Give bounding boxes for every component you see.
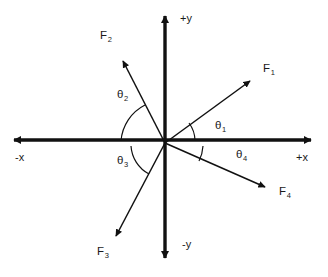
vector-F2: [123, 61, 165, 143]
angle-label-theta2-sub: 2: [124, 94, 128, 103]
force-label-F2-sub: 2: [108, 35, 112, 44]
vector-F1: [165, 81, 250, 143]
force-label-F1-sub: 1: [271, 68, 275, 77]
force-label-F3-sub: 3: [105, 251, 109, 260]
axis-label-negative-x-text: -x: [15, 151, 25, 163]
force-label-F1-base: F: [263, 62, 270, 74]
angle-label-theta4-base: θ: [236, 148, 243, 160]
angle-label-theta3-sub: 3: [124, 160, 128, 169]
force-label-F4: F4: [279, 186, 291, 198]
force-label-F2: F2: [100, 30, 112, 42]
force-label-F3: F3: [97, 246, 109, 258]
force-label-F1: F1: [263, 63, 275, 75]
force-vector-diagram: +y -y +x -x F1 F2 F3 F4 θ1 θ2 θ3 θ4: [0, 0, 328, 277]
angle-label-theta2: θ2: [117, 89, 128, 101]
theta2-arc: [121, 105, 145, 141]
angle-label-theta2-base: θ: [117, 88, 124, 100]
diagram-canvas: [0, 0, 328, 277]
angle-label-theta3: θ3: [117, 155, 128, 167]
axis-label-negative-y: -y: [182, 239, 192, 250]
angle-label-theta3-base: θ: [117, 154, 124, 166]
force-label-F4-sub: 4: [287, 191, 291, 200]
angle-label-theta1: θ1: [215, 120, 226, 132]
force-label-F3-base: F: [97, 245, 104, 257]
vector-F4: [165, 143, 265, 187]
force-label-F4-base: F: [279, 185, 286, 197]
angle-label-theta1-base: θ: [215, 119, 222, 131]
axis-label-positive-y-text: +y: [180, 12, 192, 24]
force-label-F2-base: F: [100, 29, 107, 41]
angle-label-theta4-sub: 4: [243, 154, 247, 163]
angle-label-theta4: θ4: [236, 149, 247, 161]
theta3-arc: [131, 146, 149, 174]
axis-label-negative-x: -x: [15, 152, 25, 163]
axis-label-negative-y-text: -y: [182, 238, 192, 250]
angle-label-theta1-sub: 1: [222, 125, 226, 134]
axis-label-positive-x-text: +x: [296, 151, 308, 163]
axis-label-positive-y: +y: [180, 13, 192, 24]
axis-label-positive-x: +x: [296, 152, 308, 163]
